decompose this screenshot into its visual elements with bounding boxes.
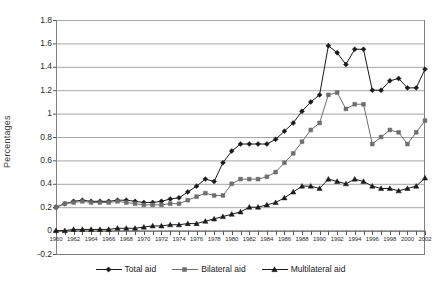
legend-marker-triangle-icon (262, 265, 288, 274)
y-axis-tick-labels: 1.81.61.41.210.80.60.40.20-0.2 (20, 0, 52, 289)
legend-entry[interactable]: Bilateral aid (172, 264, 245, 274)
data-point (133, 202, 137, 206)
series-line (56, 178, 425, 231)
data-point (151, 203, 155, 207)
legend-label: Total aid (125, 264, 157, 274)
y-axis-tick-label: 1.6 (24, 39, 52, 48)
x-axis-tick-label: 1964 (85, 236, 98, 242)
data-point (177, 202, 181, 206)
data-point (352, 176, 357, 181)
data-point (72, 201, 76, 205)
y-axis-tick-label: 1 (24, 109, 52, 118)
data-point (212, 194, 216, 198)
data-point (326, 93, 330, 97)
y-axis-tick-label: 0 (24, 226, 52, 235)
data-point (168, 197, 173, 202)
series-line (56, 46, 425, 207)
data-point (107, 201, 111, 205)
legend-entry[interactable]: Total aid (96, 264, 157, 274)
data-point (300, 140, 304, 144)
y-axis-tick-label: 0.4 (24, 179, 52, 188)
legend-label: Multilateral aid (291, 264, 346, 274)
data-point (353, 102, 357, 106)
x-axis-tick-label: 1982 (243, 236, 256, 242)
data-point (98, 201, 102, 205)
data-point (423, 119, 427, 123)
x-axis-tick-label: 2002 (419, 236, 432, 242)
data-point (370, 142, 374, 146)
x-axis-tick-label: 1990 (313, 236, 326, 242)
y-axis-tick-label: -0.2 (24, 250, 52, 259)
data-point (142, 203, 146, 207)
x-axis-tick-label: 1968 (120, 236, 133, 242)
data-point (397, 130, 401, 134)
data-point (352, 47, 357, 52)
data-point (362, 102, 366, 106)
data-point (282, 195, 287, 200)
data-point (414, 130, 418, 134)
data-point (63, 202, 67, 206)
x-axis-tick-label: 1988 (296, 236, 309, 242)
data-point (414, 85, 419, 90)
series-bilateral-aid (54, 91, 427, 210)
x-axis-tick-label: 1978 (208, 236, 221, 242)
legend-marker-shape (183, 267, 187, 271)
data-point (212, 179, 217, 184)
data-point (221, 194, 225, 198)
data-point (326, 176, 331, 181)
x-axis-tick-label: 1986 (278, 236, 291, 242)
x-axis-tick-label: 1970 (137, 236, 150, 242)
data-point (203, 191, 207, 195)
data-point (291, 151, 295, 155)
x-tick-marks (57, 231, 426, 235)
data-point (168, 202, 172, 206)
data-point (405, 142, 409, 146)
data-point (379, 135, 383, 139)
data-point (422, 175, 427, 180)
series-line (56, 93, 425, 208)
data-point (124, 201, 128, 205)
data-point (54, 205, 58, 209)
data-point (309, 128, 313, 132)
x-axis-tick-label: 1992 (331, 236, 344, 242)
y-axis-tick-label: 1.8 (24, 16, 52, 25)
data-point (264, 142, 269, 147)
y-axis-tick-label: 1.2 (24, 86, 52, 95)
legend-label: Bilateral aid (201, 264, 245, 274)
x-axis-tick-label: 1998 (383, 236, 396, 242)
y-axis-tick-label: 0.6 (24, 156, 52, 165)
x-axis-tick-label: 1994 (348, 236, 361, 242)
x-axis-tick-label: 1974 (173, 236, 186, 242)
data-point (273, 200, 278, 205)
legend-entry[interactable]: Multilateral aid (262, 264, 346, 274)
data-point (344, 107, 348, 111)
y-axis-tick-label: 0.2 (24, 203, 52, 212)
data-point (186, 198, 190, 202)
data-point (80, 199, 84, 203)
legend-marker-shape (105, 266, 110, 271)
data-point (238, 209, 243, 214)
gridlines (56, 21, 425, 255)
data-point (282, 161, 286, 165)
data-point (239, 177, 243, 181)
data-point (370, 88, 375, 93)
y-tick-marks (53, 21, 56, 255)
data-point (89, 201, 93, 205)
x-axis-tick-label: 2000 (401, 236, 414, 242)
data-point (247, 142, 252, 147)
data-point (159, 203, 163, 207)
x-axis-tick-label: 1972 (155, 236, 168, 242)
plot-area (0, 0, 441, 289)
data-point (230, 182, 234, 186)
data-point (274, 170, 278, 174)
data-point (256, 142, 261, 147)
data-point (388, 128, 392, 132)
data-point (116, 199, 120, 203)
data-point (335, 91, 339, 95)
x-axis-tick-label: 1996 (366, 236, 379, 242)
x-axis-tick-label: 1984 (260, 236, 273, 242)
data-point (247, 177, 251, 181)
data-point (361, 47, 366, 52)
data-point (318, 121, 322, 125)
x-axis-tick-label: 1980 (225, 236, 238, 242)
